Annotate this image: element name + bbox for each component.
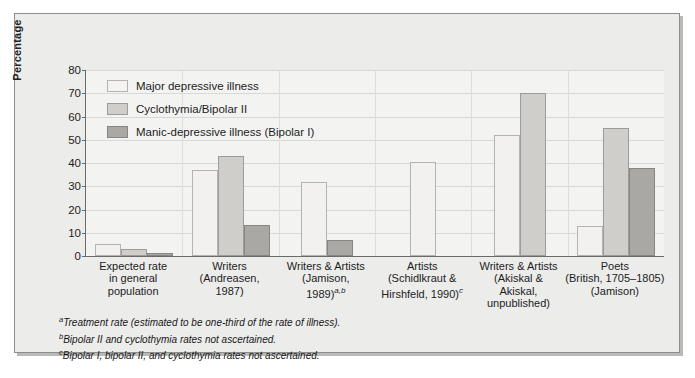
footnote-a: aTreatment rate (estimated to be one-thi… [59, 313, 619, 330]
x-axis-labels: Expected ratein generalpopulationWriters… [85, 260, 663, 310]
x-axis-label-line: in general [79, 272, 187, 284]
y-axis-tick-mark [82, 117, 86, 118]
x-axis-label-line: (Akiskal & [464, 272, 572, 284]
y-axis-tick-label: 60 [68, 111, 81, 123]
x-axis-label-line: 1987) [175, 285, 283, 297]
bar-series-2-group-0 [147, 253, 173, 256]
bar-series-0-group-2 [301, 182, 327, 256]
x-axis-label-line: (Jamison, [272, 272, 380, 284]
group-separator [471, 70, 472, 256]
x-axis-label-3: Artists(Schidlkraut &Hirshfeld, 1990)c [368, 260, 476, 300]
x-axis-label-1: Writers(Andreasen,1987) [175, 260, 283, 297]
legend-label: Major depressive illness [136, 80, 259, 92]
x-axis-label-line: unpublished) [464, 297, 572, 309]
series-2-swatch [107, 126, 128, 138]
y-axis-tick-mark [82, 210, 86, 211]
y-axis-tick-mark [82, 93, 86, 94]
x-axis-label-4: Writers & Artists(Akiskal &Akiskal,unpub… [464, 260, 572, 310]
x-axis-label-5: Poets(British, 1705–1805)(Jamison) [561, 260, 669, 297]
x-axis-label-line: (Jamison) [561, 285, 669, 297]
group-separator [568, 70, 569, 256]
y-axis-title: Percentage [11, 0, 23, 110]
series-1-swatch [107, 103, 128, 115]
x-axis-label-line: Writers [175, 260, 283, 272]
series-0-swatch [107, 80, 128, 92]
y-axis-tick-label: 20 [68, 204, 81, 216]
bar-series-1-group-5 [603, 128, 629, 256]
y-axis-tick-label: 50 [68, 134, 81, 146]
bar-series-2-group-1 [244, 225, 270, 256]
footnote-marker: c [459, 286, 463, 295]
y-axis-tick-mark [82, 233, 86, 234]
y-axis-tick-mark [82, 70, 86, 71]
x-axis-label-line: Artists [368, 260, 476, 272]
y-axis-tick-mark [82, 186, 86, 187]
bar-series-1-group-0 [121, 249, 147, 256]
x-axis-label-line: population [79, 285, 187, 297]
x-axis-label-line: Akiskal, [464, 285, 572, 297]
group-separator [375, 70, 376, 256]
x-axis-label-line: 1989)a,b [272, 285, 380, 300]
y-axis-tick-label: 40 [68, 157, 81, 169]
legend-label: Manic-depressive illness (Bipolar I) [136, 126, 314, 138]
x-axis-label-line: Writers & Artists [272, 260, 380, 272]
footnote-marker: c [59, 348, 63, 357]
y-axis-tick-label: 10 [68, 227, 81, 239]
y-axis-tick-mark [82, 163, 86, 164]
x-axis-label-line: Writers & Artists [464, 260, 572, 272]
bar-series-0-group-4 [494, 135, 520, 256]
legend-item-2: Manic-depressive illness (Bipolar I) [107, 122, 314, 141]
bar-series-0-group-1 [192, 170, 218, 256]
bar-series-0-group-5 [577, 226, 603, 256]
bar-series-0-group-3 [410, 162, 436, 256]
y-axis-tick-label: 80 [68, 64, 81, 76]
x-axis-label-line: Expected rate [79, 260, 187, 272]
footnote-b: bBipolar II and cyclothymia rates not as… [59, 330, 619, 347]
footnote-c: cBipolar I, bipolar II, and cyclothymia … [59, 346, 619, 363]
x-axis-label-line: (British, 1705–1805) [561, 272, 669, 284]
legend-item-0: Major depressive illness [107, 76, 314, 95]
y-axis-tick-label: 30 [68, 180, 81, 192]
y-axis-tick-mark [82, 256, 86, 257]
x-axis-label-line: Hirshfeld, 1990)c [368, 285, 476, 300]
x-axis-label-line: (Andreasen, [175, 272, 283, 284]
bar-series-1-group-4 [520, 93, 546, 256]
bar-series-2-group-5 [629, 168, 655, 256]
chart-frame: Percentage 01020304050607080 Major depre… [14, 13, 680, 353]
x-axis-label-2: Writers & Artists(Jamison,1989)a,b [272, 260, 380, 300]
footnotes: aTreatment rate (estimated to be one-thi… [59, 313, 619, 363]
legend-label: Cyclothymia/Bipolar II [136, 103, 247, 115]
footnote-marker: b [59, 332, 63, 341]
legend-item-1: Cyclothymia/Bipolar II [107, 99, 314, 118]
footnote-marker: a,b [334, 286, 345, 295]
bar-series-0-group-0 [95, 244, 121, 256]
x-axis-label-0: Expected ratein generalpopulation [79, 260, 187, 297]
chart-legend: Major depressive illnessCyclothymia/Bipo… [107, 76, 314, 145]
bar-series-2-group-2 [327, 240, 353, 256]
bar-series-1-group-1 [218, 156, 244, 256]
y-axis-tick-mark [82, 140, 86, 141]
chart-page: Percentage 01020304050607080 Major depre… [0, 0, 695, 378]
x-axis-label-line: Poets [561, 260, 669, 272]
x-axis-label-line: (Schidlkraut & [368, 272, 476, 284]
y-axis-tick-label: 70 [68, 87, 81, 99]
footnote-marker: a [59, 315, 63, 324]
